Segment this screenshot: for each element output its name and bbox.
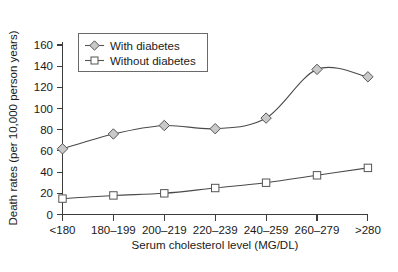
chart-series-layer bbox=[57, 64, 373, 202]
data-point-diamond-0 bbox=[57, 144, 67, 154]
data-point-diamond-6 bbox=[363, 72, 373, 82]
x-tick-label-4: 240–259 bbox=[244, 224, 289, 236]
x-tick-label-6: >280 bbox=[355, 224, 381, 236]
data-point-square-3 bbox=[212, 184, 219, 191]
x-tick-label-5: 260–279 bbox=[295, 224, 340, 236]
x-tick-label-1: 180–199 bbox=[91, 224, 136, 236]
data-point-diamond-2 bbox=[159, 120, 169, 130]
data-point-diamond-3 bbox=[210, 123, 220, 133]
y-tick-label-80: 80 bbox=[40, 124, 53, 136]
square-marker-icon bbox=[91, 57, 98, 64]
series-with-diabetes bbox=[57, 64, 373, 154]
data-point-diamond-5 bbox=[312, 64, 322, 74]
y-tick-label-0: 0 bbox=[47, 209, 53, 221]
legend-label-0: With diabetes bbox=[110, 40, 180, 52]
y-tick-label-40: 40 bbox=[40, 166, 53, 178]
data-point-square-2 bbox=[161, 190, 168, 197]
series-line-1 bbox=[63, 168, 368, 199]
series-line-0 bbox=[63, 67, 368, 148]
series-without-diabetes bbox=[59, 164, 372, 202]
y-axis-title: Death rates (per 10,000 person years) bbox=[7, 30, 19, 225]
chart-legend: With diabetes Without diabetes bbox=[79, 34, 208, 72]
y-tick-label-60: 60 bbox=[40, 145, 53, 157]
data-point-square-0 bbox=[59, 195, 66, 202]
x-tick-label-2: 200–219 bbox=[142, 224, 187, 236]
y-tick-label-140: 140 bbox=[34, 60, 53, 72]
x-axis-ticks: <180180–199200–219220–239240–259260–279>… bbox=[50, 215, 381, 236]
data-point-square-5 bbox=[313, 172, 320, 179]
y-tick-label-20: 20 bbox=[40, 187, 53, 199]
y-tick-label-160: 160 bbox=[34, 39, 53, 51]
line-chart: 020406080100120140160 <180180–199200–219… bbox=[0, 0, 398, 272]
x-tick-label-3: 220–239 bbox=[193, 224, 238, 236]
legend-label-1: Without diabetes bbox=[110, 55, 196, 67]
y-axis-ticks: 020406080100120140160 bbox=[34, 39, 63, 221]
data-point-square-4 bbox=[262, 179, 269, 186]
y-tick-label-100: 100 bbox=[34, 103, 53, 115]
x-tick-label-0: <180 bbox=[50, 224, 76, 236]
data-point-square-1 bbox=[110, 192, 117, 199]
data-point-square-6 bbox=[364, 164, 371, 171]
chart-figure: 020406080100120140160 <180180–199200–219… bbox=[0, 0, 398, 272]
x-axis-title: Serum cholesterol level (MG/DL) bbox=[132, 239, 299, 251]
data-point-diamond-1 bbox=[108, 129, 118, 139]
y-tick-label-120: 120 bbox=[34, 81, 53, 93]
data-point-diamond-4 bbox=[261, 113, 271, 123]
